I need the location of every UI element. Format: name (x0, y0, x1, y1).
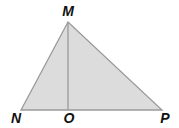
vertex-label-p: P (160, 110, 170, 126)
vertex-label-n: N (11, 110, 22, 126)
vertex-label-o: O (64, 110, 75, 126)
vertex-label-m: M (62, 3, 74, 19)
triangle-diagram: M N O P (0, 0, 179, 128)
triangle-mnp (21, 22, 162, 110)
